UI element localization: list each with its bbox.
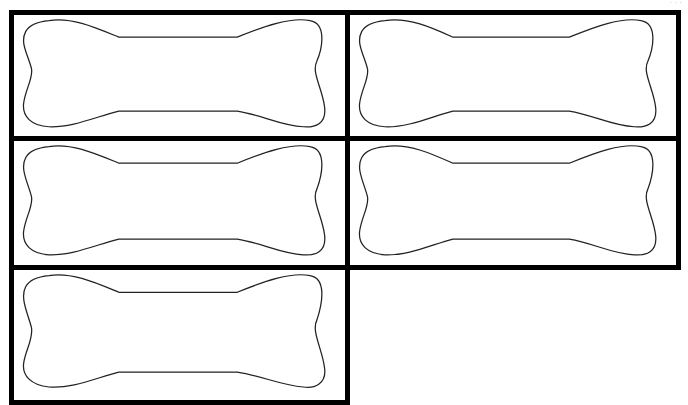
bone-cell-2	[345, 10, 681, 141]
bone-cell-1	[9, 10, 350, 141]
cropped-header-text: · · ·	[670, 0, 682, 8]
bone-outline-icon	[350, 141, 676, 265]
bone-outline-icon	[14, 270, 345, 400]
bone-cell-5	[9, 265, 350, 405]
bone-cell-3	[9, 136, 350, 270]
bone-cell-4	[345, 136, 681, 270]
bone-outline-icon	[14, 141, 345, 265]
bone-outline-icon	[350, 15, 676, 136]
bone-outline-icon	[14, 15, 345, 136]
